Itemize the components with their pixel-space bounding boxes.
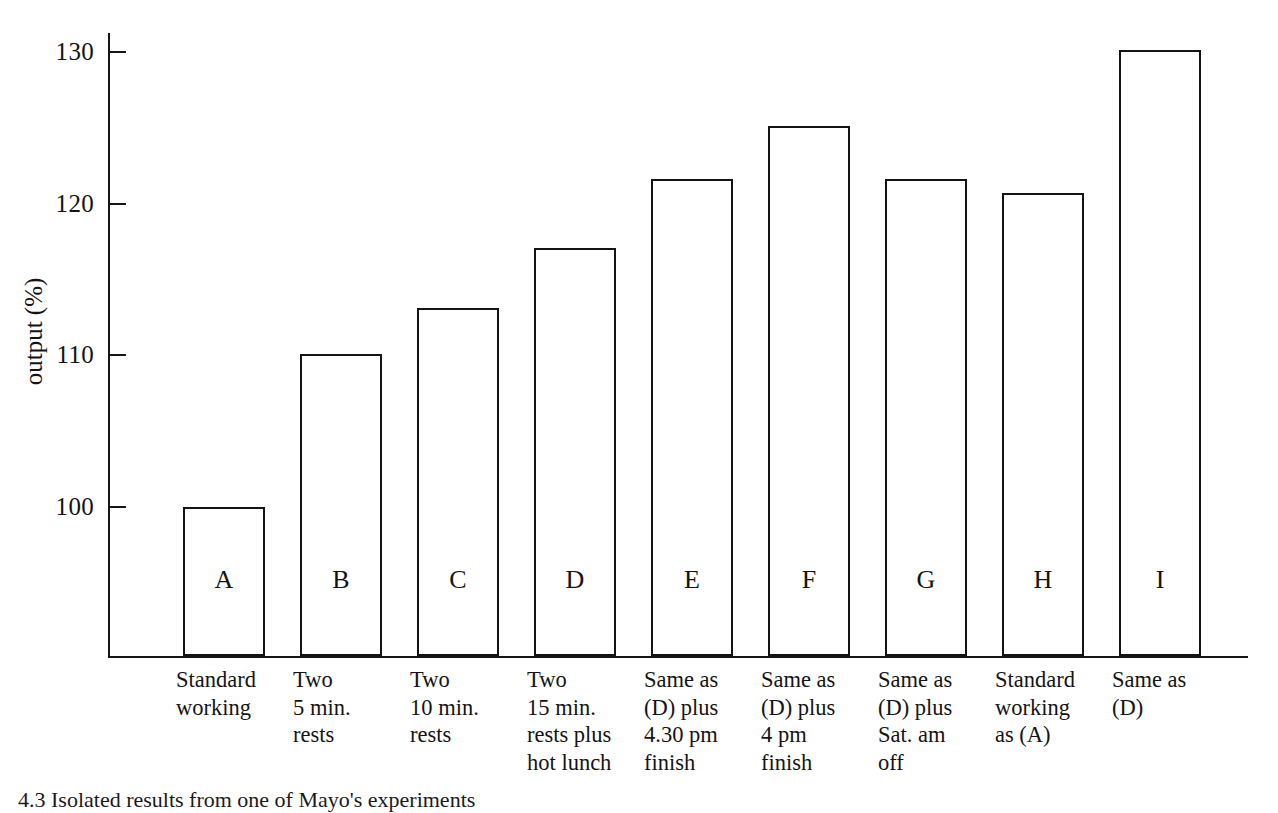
bar-letter-f: F xyxy=(770,567,848,593)
figure-caption: 4.3 Isolated results from one of Mayo's … xyxy=(18,787,475,813)
bar-c: C xyxy=(417,308,499,656)
bar-letter-i: I xyxy=(1121,567,1199,593)
bar-e: E xyxy=(651,179,733,656)
bar-g: G xyxy=(885,179,967,656)
caption-line: (D) plus xyxy=(644,694,718,722)
caption-line: Same as xyxy=(878,666,952,694)
caption-line: rests xyxy=(293,721,351,749)
caption-line: Standard xyxy=(176,666,256,694)
bar-letter-c: C xyxy=(419,567,497,593)
caption-line: as (A) xyxy=(995,721,1075,749)
caption-line: (D) xyxy=(1112,694,1186,722)
caption-line: hot lunch xyxy=(527,749,611,777)
caption-line: (D) plus xyxy=(761,694,835,722)
caption-line: (D) plus xyxy=(878,694,952,722)
caption-line: working xyxy=(995,694,1075,722)
caption-line: 5 min. xyxy=(293,694,351,722)
caption-line: Sat. am xyxy=(878,721,952,749)
x-axis-line xyxy=(108,656,1248,658)
bar-letter-d: D xyxy=(536,567,614,593)
caption-line: Same as xyxy=(644,666,718,694)
category-caption-f: Same as(D) plus4 pmfinish xyxy=(761,666,835,776)
caption-line: finish xyxy=(644,749,718,777)
category-caption-g: Same as(D) plusSat. amoff xyxy=(878,666,952,776)
caption-line: rests xyxy=(410,721,479,749)
bar-letter-h: H xyxy=(1004,567,1082,593)
bar-i: I xyxy=(1119,50,1201,656)
bar-f: F xyxy=(768,126,850,656)
caption-line: Two xyxy=(410,666,479,694)
y-axis-tick-label: 120 xyxy=(0,191,94,216)
caption-line: 10 min. xyxy=(410,694,479,722)
bar-a: A xyxy=(183,507,265,656)
caption-line: Same as xyxy=(761,666,835,694)
caption-line: Same as xyxy=(1112,666,1186,694)
caption-line: 4.30 pm xyxy=(644,721,718,749)
category-caption-b: Two5 min.rests xyxy=(293,666,351,749)
caption-line: 15 min. xyxy=(527,694,611,722)
category-caption-i: Same as(D) xyxy=(1112,666,1186,721)
y-axis-tick-label: 100 xyxy=(0,494,94,519)
caption-line: working xyxy=(176,694,256,722)
bar-b: B xyxy=(300,354,382,656)
category-caption-e: Same as(D) plus4.30 pmfinish xyxy=(644,666,718,776)
bar-d: D xyxy=(534,248,616,656)
bar-h: H xyxy=(1002,193,1084,656)
category-caption-a: Standardworking xyxy=(176,666,256,721)
category-caption-h: Standardworkingas (A) xyxy=(995,666,1075,749)
caption-line: Two xyxy=(293,666,351,694)
y-axis-tick-label: 110 xyxy=(0,342,94,367)
caption-line: rests plus xyxy=(527,721,611,749)
bar-letter-g: G xyxy=(887,567,965,593)
caption-line: Standard xyxy=(995,666,1075,694)
caption-line: Two xyxy=(527,666,611,694)
bar-letter-e: E xyxy=(653,567,731,593)
category-caption-c: Two10 min.rests xyxy=(410,666,479,749)
bar-letter-a: A xyxy=(185,567,263,593)
caption-line: finish xyxy=(761,749,835,777)
caption-line: 4 pm xyxy=(761,721,835,749)
category-caption-d: Two15 min.rests plushot lunch xyxy=(527,666,611,776)
plot-area: ABCDEFGHI xyxy=(108,33,1248,656)
caption-line: off xyxy=(878,749,952,777)
y-axis-tick-label: 130 xyxy=(0,39,94,64)
y-axis-title: output (%) xyxy=(20,237,47,427)
bar-letter-b: B xyxy=(302,567,380,593)
